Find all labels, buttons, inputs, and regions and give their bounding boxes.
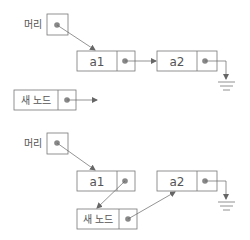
head-label: 머리: [24, 19, 42, 30]
head-to-a1-arrow: [57, 25, 95, 50]
head-label: 머리: [24, 138, 42, 149]
new-to-a2-arrow: [128, 192, 175, 219]
diagram-after-insert: 머리 a1 a2: [24, 133, 235, 229]
null-ground-icon: [218, 202, 235, 210]
node-new: 새 노드: [14, 90, 76, 110]
node-a2-label: a2: [170, 55, 185, 69]
node-a1-label: a1: [90, 55, 105, 69]
node-a2-label: a2: [170, 175, 185, 189]
null-ground-icon: [218, 82, 235, 90]
node-a1: a1: [77, 171, 135, 191]
node-new-label: 새 노드: [83, 214, 113, 225]
linked-list-diagram: 머리 a1 a2: [0, 0, 250, 240]
node-a1-label: a1: [90, 175, 105, 189]
diagram-before-insert: 머리 a1 a2: [14, 14, 235, 110]
node-new-label: 새 노드: [21, 95, 51, 106]
head-to-a1-arrow: [57, 143, 95, 170]
